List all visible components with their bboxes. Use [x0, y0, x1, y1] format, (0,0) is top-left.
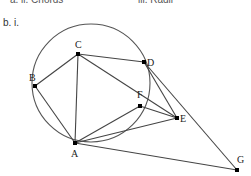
geometry-diagram: A B C D E F G: [0, 0, 251, 176]
point-label-g: G: [237, 154, 244, 165]
point-label-a: A: [71, 148, 79, 159]
point-label-e: E: [180, 113, 186, 124]
circle: [32, 24, 150, 142]
point-markers: [33, 52, 239, 172]
figure: a. ii. Chords iii. Radii b. i. A: [0, 0, 251, 176]
segments: [35, 54, 237, 170]
point-label-b: B: [29, 72, 36, 83]
point-label-f: F: [137, 89, 143, 100]
point-label-d: D: [147, 57, 154, 68]
point-label-c: C: [75, 39, 82, 50]
